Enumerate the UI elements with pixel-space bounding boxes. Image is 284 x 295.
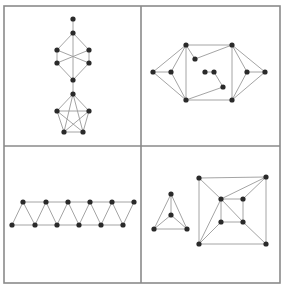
- graph-node: [168, 191, 173, 196]
- graph-node: [70, 77, 75, 82]
- graph-node: [220, 84, 225, 89]
- graph-edge: [64, 111, 89, 132]
- graph-node: [86, 108, 91, 113]
- graph-edge: [243, 222, 266, 244]
- graph-edge: [195, 45, 232, 59]
- graph-node: [80, 129, 85, 134]
- graph-node: [150, 69, 155, 74]
- graph-edge: [79, 202, 90, 225]
- graph-node: [65, 199, 70, 204]
- graph-node: [61, 129, 66, 134]
- graph-node: [86, 47, 91, 52]
- graph-edge: [153, 72, 186, 100]
- graph-edge: [232, 45, 247, 72]
- graph-node: [9, 222, 14, 227]
- graph-node: [244, 69, 249, 74]
- graph-node: [70, 16, 75, 21]
- graph-node: [54, 60, 59, 65]
- graph-node: [168, 212, 173, 217]
- figure-frame: [4, 6, 280, 283]
- graph-node: [86, 60, 91, 65]
- graph-node: [87, 199, 92, 204]
- graph-node: [70, 30, 75, 35]
- graph-edge: [73, 33, 89, 50]
- graph-edge: [57, 63, 73, 80]
- top-right-graph: [150, 42, 267, 102]
- graph-node: [183, 42, 188, 47]
- graph-edge: [90, 202, 101, 225]
- graph-node: [263, 241, 268, 246]
- graph-edge: [232, 72, 247, 100]
- graph-figure: [0, 0, 284, 295]
- graph-node: [218, 219, 223, 224]
- graph-node: [20, 199, 25, 204]
- graph-edge: [171, 194, 187, 229]
- graph-edge: [214, 72, 223, 87]
- graph-node: [98, 222, 103, 227]
- graph-edge: [199, 177, 266, 178]
- graph-panels: [9, 16, 268, 246]
- graph-edge: [154, 194, 171, 229]
- graph-node: [262, 69, 267, 74]
- graph-edge: [221, 177, 266, 199]
- graph-node: [211, 69, 216, 74]
- graph-edge: [64, 94, 73, 132]
- bottom-right-graph: [151, 174, 268, 246]
- graph-edge: [101, 202, 112, 225]
- graph-node: [263, 174, 268, 179]
- graph-edge: [186, 87, 223, 100]
- graph-node: [109, 199, 114, 204]
- graph-node: [151, 226, 156, 231]
- graph-node: [196, 175, 201, 180]
- graph-edge: [243, 177, 266, 199]
- graph-node: [183, 97, 188, 102]
- graph-node: [32, 222, 37, 227]
- graph-node: [131, 199, 136, 204]
- graph-edge: [112, 202, 123, 225]
- graph-node: [202, 69, 207, 74]
- graph-edge: [35, 202, 46, 225]
- graph-edge: [12, 202, 23, 225]
- graph-edge: [83, 111, 89, 132]
- graph-edge: [123, 202, 134, 225]
- graph-node: [229, 97, 234, 102]
- graph-edge: [73, 63, 89, 80]
- graph-node: [54, 108, 59, 113]
- graph-node: [70, 91, 75, 96]
- graph-node: [54, 222, 59, 227]
- graph-node: [76, 222, 81, 227]
- graph-edge: [232, 72, 265, 100]
- graph-node: [168, 69, 173, 74]
- graph-edge: [68, 202, 79, 225]
- graph-node: [240, 219, 245, 224]
- graph-node: [43, 199, 48, 204]
- bottom-left-graph: [9, 199, 136, 227]
- graph-node: [120, 222, 125, 227]
- graph-edge: [199, 222, 221, 244]
- graph-edge: [23, 202, 35, 225]
- graph-node: [218, 196, 223, 201]
- graph-edge: [153, 45, 186, 72]
- graph-node: [229, 42, 234, 47]
- graph-edge: [171, 215, 187, 229]
- graph-edge: [57, 33, 73, 50]
- graph-edge: [154, 215, 171, 229]
- graph-node: [54, 47, 59, 52]
- graph-edge: [232, 45, 265, 72]
- graph-edge: [199, 178, 221, 199]
- graph-edge: [171, 45, 186, 72]
- graph-edge: [57, 202, 68, 225]
- graph-edge: [171, 72, 186, 100]
- graph-edge: [46, 202, 57, 225]
- graph-node: [196, 241, 201, 246]
- graph-node: [192, 56, 197, 61]
- top-left-graph: [54, 16, 91, 134]
- graph-node: [240, 196, 245, 201]
- graph-edge: [221, 199, 243, 222]
- graph-edge: [199, 199, 221, 244]
- graph-node: [184, 226, 189, 231]
